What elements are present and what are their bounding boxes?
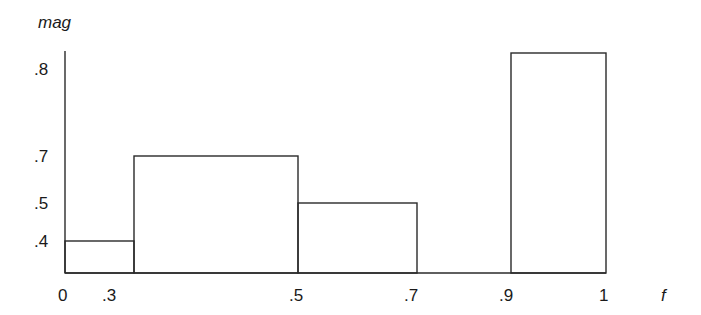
y-tick-label: .5 (34, 194, 48, 213)
y-tick-label: .8 (34, 60, 48, 79)
bar-1 (134, 156, 298, 273)
y-axis-title: mag (38, 13, 72, 32)
x-tick-label: .9 (499, 286, 513, 305)
x-tick-label: .3 (102, 286, 116, 305)
x-tick-label: .5 (289, 286, 303, 305)
x-tick-label: 0 (58, 286, 67, 305)
x-axis-title: f (661, 286, 668, 305)
magnitude-chart: mag .8 .7 .5 .4 0 .3 .5 .7 .9 1 f (0, 0, 701, 315)
bar-0 (65, 241, 134, 273)
x-tick-label: .7 (404, 286, 418, 305)
y-tick-label: .4 (34, 232, 48, 251)
bar-4 (511, 53, 606, 273)
x-tick-label: 1 (599, 286, 608, 305)
y-tick-label: .7 (34, 147, 48, 166)
bar-2 (298, 203, 417, 273)
